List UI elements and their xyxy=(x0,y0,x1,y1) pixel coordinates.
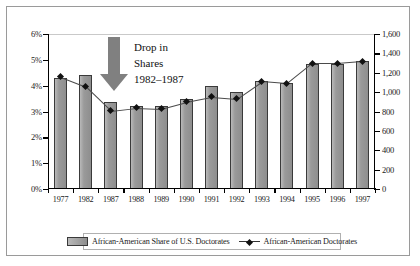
annotation-drop-in-shares: Drop in Shares 1982–1987 xyxy=(97,37,217,99)
x-tick xyxy=(224,188,225,193)
right-tick xyxy=(374,112,380,113)
right-tick xyxy=(374,170,380,171)
left-tick-label-0%: 0% xyxy=(12,185,42,194)
legend-item-bar: African-American Share of U.S. Doctorate… xyxy=(67,237,230,246)
left-tick-label-3%: 3% xyxy=(12,108,42,117)
x-tick xyxy=(325,188,326,193)
right-tick xyxy=(374,53,380,54)
right-tick-label-1,600: 1,600 xyxy=(382,30,416,39)
legend-item-line: African-American Doctorates xyxy=(239,237,357,246)
annotation-line-3: 1982–1987 xyxy=(134,71,224,87)
left-tick-label-6%: 6% xyxy=(12,30,42,39)
x-axis-line xyxy=(48,188,376,189)
right-tick xyxy=(374,150,380,151)
bar-1995 xyxy=(306,64,319,189)
bar-1977 xyxy=(54,78,67,189)
bar-1996 xyxy=(331,64,344,189)
right-tick xyxy=(374,92,380,93)
left-tick xyxy=(43,34,49,35)
annotation-line-2: Shares xyxy=(134,55,224,71)
right-tick xyxy=(374,131,380,132)
right-tick-label-1,000: 1,000 xyxy=(382,88,416,97)
bar-1997 xyxy=(356,61,369,189)
left-axis-tick-labels: 0%1%2%3%4%5%6% xyxy=(11,7,42,266)
down-arrow-icon xyxy=(108,37,120,75)
legend-label-bar: African-American Share of U.S. Doctorate… xyxy=(92,237,230,246)
left-tick xyxy=(43,86,49,87)
bar-1990 xyxy=(180,99,193,189)
x-tick xyxy=(350,188,351,193)
bar-1992 xyxy=(230,92,243,189)
right-tick-label-400: 400 xyxy=(382,146,416,155)
right-axis-tick-labels: 02004006008001,0001,2001,4001,600 xyxy=(382,7,416,266)
bar-1991 xyxy=(205,86,218,189)
right-tick-label-800: 800 xyxy=(382,108,416,117)
bar-1994 xyxy=(280,83,293,189)
x-tick xyxy=(123,188,124,193)
chart-frame: 0%1%2%3%4%5%6% 02004006008001,0001,2001,… xyxy=(6,6,410,256)
left-tick-label-4%: 4% xyxy=(12,82,42,91)
right-tick xyxy=(374,73,380,74)
left-tick xyxy=(43,137,49,138)
left-tick xyxy=(43,60,49,61)
left-tick xyxy=(43,163,49,164)
left-tick-label-2%: 2% xyxy=(12,133,42,142)
x-tick xyxy=(149,188,150,193)
bar-1987 xyxy=(104,102,117,189)
x-tick xyxy=(48,188,49,193)
bar-1988 xyxy=(130,106,143,189)
right-tick-label-200: 200 xyxy=(382,166,416,175)
left-tick-label-1%: 1% xyxy=(12,159,42,168)
x-tick xyxy=(249,188,250,193)
right-tick-label-1,200: 1,200 xyxy=(382,69,416,78)
x-tick xyxy=(274,188,275,193)
right-tick xyxy=(374,34,380,35)
bar-1993 xyxy=(255,81,268,190)
x-tick xyxy=(174,188,175,193)
annotation-text: Drop in Shares 1982–1987 xyxy=(134,39,224,87)
right-tick-label-600: 600 xyxy=(382,127,416,136)
right-tick-label-1,400: 1,400 xyxy=(382,49,416,58)
x-tick xyxy=(98,188,99,193)
right-tick-label-0: 0 xyxy=(382,185,416,194)
x-tick-label-1997: 1997 xyxy=(342,195,382,204)
bar-1989 xyxy=(155,106,168,189)
chart-legend: African-American Share of U.S. Doctorate… xyxy=(83,233,341,250)
x-tick xyxy=(300,188,301,193)
legend-label-line: African-American Doctorates xyxy=(264,237,357,246)
line-diamond-icon xyxy=(239,238,260,245)
x-tick xyxy=(73,188,74,193)
left-tick-label-5%: 5% xyxy=(12,56,42,65)
down-arrow-head-icon xyxy=(100,74,128,91)
x-tick xyxy=(199,188,200,193)
annotation-line-1: Drop in xyxy=(134,39,224,55)
left-tick xyxy=(43,112,49,113)
plot-top-rule xyxy=(48,34,376,35)
bar-swatch-icon xyxy=(67,237,88,246)
x-tick xyxy=(375,188,376,193)
